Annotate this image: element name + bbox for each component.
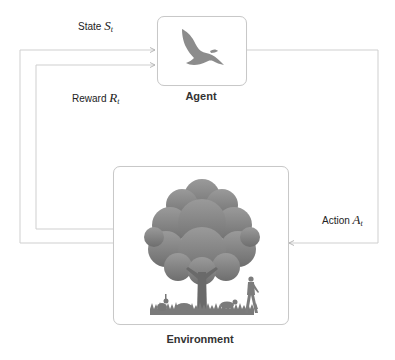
tree-scene-icon (114, 167, 288, 324)
action-label: Action At (322, 212, 363, 228)
action-label-text: Action (322, 215, 350, 226)
action-symbol: A (353, 212, 361, 227)
state-label-text: State (78, 21, 101, 32)
reward-subscript: t (117, 97, 119, 106)
state-label: State St (78, 18, 113, 34)
state-subscript: t (111, 25, 113, 34)
environment-box (113, 166, 289, 325)
rl-diagram: Agent (0, 0, 395, 360)
action-subscript: t (361, 219, 363, 228)
environment-label: Environment (113, 333, 287, 345)
reward-label-text: Reward (72, 93, 106, 104)
reward-symbol: R (109, 90, 117, 105)
agent-box (157, 16, 247, 86)
agent-label: Agent (157, 90, 245, 102)
reward-label: Reward Rt (72, 90, 119, 106)
bird-icon (158, 17, 246, 85)
